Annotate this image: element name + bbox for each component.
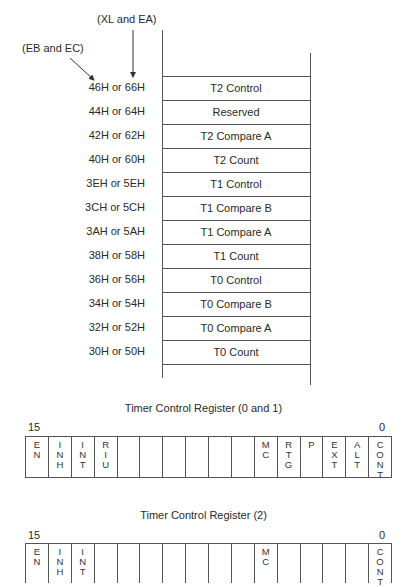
address-label: 30H or 50H	[89, 345, 145, 357]
address-label: 36H or 56H	[89, 273, 145, 285]
bit-cell: RTG	[278, 437, 301, 477]
address-label: 42H or 62H	[89, 129, 145, 141]
lsb-label: 0	[379, 529, 385, 541]
register-name: T0 Compare A	[201, 322, 272, 334]
bit-cell: RIU	[95, 437, 118, 477]
bit-cell: EXT	[323, 437, 346, 477]
address-label: 32H or 52H	[89, 321, 145, 333]
memory-row: T1 Control	[162, 172, 310, 196]
bit-cell	[163, 544, 186, 583]
address-label: 3CH or 5CH	[85, 201, 145, 213]
memory-row: T2 Compare A	[162, 124, 310, 148]
register-title: Timer Control Register (2)	[0, 509, 407, 521]
memory-row: T1 Compare B	[162, 196, 310, 220]
bit-cell: EN	[26, 437, 49, 477]
bit-cell	[118, 437, 141, 477]
bit-cell	[140, 437, 163, 477]
address-label: 46H or 66H	[89, 81, 145, 93]
memory-row: T0 Count	[162, 340, 310, 364]
register-title: Timer Control Register (0 and 1)	[0, 402, 407, 414]
bit-cell	[186, 544, 209, 583]
register-name: T1 Compare A	[201, 226, 272, 238]
lsb-label: 0	[379, 421, 385, 433]
bit-cell: INH	[49, 437, 72, 477]
address-label: 3AH or 5AH	[86, 225, 145, 237]
bit-cell: INH	[49, 544, 72, 583]
register-name: T0 Compare B	[200, 298, 272, 310]
bit-cell: P	[301, 437, 324, 477]
bit-cell	[232, 544, 255, 583]
address-label: 44H or 64H	[89, 105, 145, 117]
address-label: 3EH or 5EH	[86, 177, 145, 189]
register-bits: ENINHINTMCCONT	[25, 543, 392, 583]
memory-row: T2 Control	[162, 76, 310, 100]
bit-cell: CONT	[369, 544, 391, 583]
register-name: T0 Control	[210, 274, 261, 286]
bit-cell	[186, 437, 209, 477]
row-divider	[162, 364, 311, 365]
register-name: T2 Control	[210, 82, 261, 94]
memory-row: T1 Count	[162, 244, 310, 268]
memory-row: T2 Count	[162, 148, 310, 172]
bit-cell	[140, 544, 163, 583]
bit-cell: ALT	[346, 437, 369, 477]
bit-cell	[323, 544, 346, 583]
address-label: 38H or 58H	[89, 249, 145, 261]
msb-label: 15	[28, 421, 40, 433]
msb-label: 15	[28, 529, 40, 541]
register-name: Reserved	[212, 106, 259, 118]
bit-cell	[232, 437, 255, 477]
address-label: 34H or 54H	[89, 297, 145, 309]
register-name: T1 Compare B	[200, 202, 272, 214]
bit-cell	[95, 544, 118, 583]
bit-cell	[209, 544, 232, 583]
memory-row: T0 Control	[162, 268, 310, 292]
register-name: T0 Count	[213, 346, 258, 358]
memory-row: T1 Compare A	[162, 220, 310, 244]
bit-cell: CONT	[369, 437, 391, 477]
bit-cell	[118, 544, 141, 583]
bit-cell: MC	[255, 437, 278, 477]
bit-cell	[209, 437, 232, 477]
memory-row: Reserved	[162, 100, 310, 124]
register-name: T1 Control	[210, 178, 261, 190]
bit-cell: INT	[72, 544, 95, 583]
bit-cell: EN	[26, 544, 49, 583]
register-name: T1 Count	[213, 250, 258, 262]
bit-cell	[278, 544, 301, 583]
memory-row: T0 Compare B	[162, 292, 310, 316]
register-bits: ENINHINTRIUMCRTGPEXTALTCONT	[25, 436, 392, 478]
bit-cell	[163, 437, 186, 477]
address-label: 40H or 60H	[89, 153, 145, 165]
register-name: T2 Count	[213, 154, 258, 166]
bit-cell: MC	[255, 544, 278, 583]
memory-row: T0 Compare A	[162, 316, 310, 340]
bit-cell	[346, 544, 369, 583]
bit-cell: INT	[72, 437, 95, 477]
bit-cell	[301, 544, 324, 583]
register-name: T2 Compare A	[201, 130, 272, 142]
map-right-border	[310, 53, 311, 385]
